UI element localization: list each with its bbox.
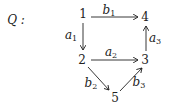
arrow-label-a3: a3 [149,32,161,46]
vertex-3: 3 [141,54,149,66]
vertex-2: 2 [78,54,86,66]
arrow-label-b1: b1 [103,4,116,18]
arrow-label-a2: a2 [105,46,117,60]
arrow-label-a1: a1 [65,29,77,43]
quiver-title: Q : [7,14,25,26]
arrow-label-b3: b3 [133,76,146,90]
vertex-4: 4 [141,11,149,23]
arrow-label-b2: b2 [85,77,98,91]
vertex-1: 1 [79,8,87,20]
vertex-5: 5 [111,92,119,104]
